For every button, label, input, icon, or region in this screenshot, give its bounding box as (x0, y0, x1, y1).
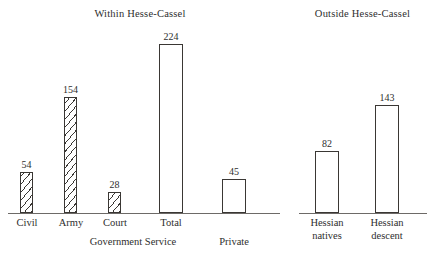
plot-area-right: 82 143 (290, 0, 433, 213)
bar-civil: 54 (20, 172, 33, 213)
x-tick-label-hessian-natives-line1: Hessian (310, 217, 343, 228)
bar-hessian-descent: 143 (375, 105, 399, 213)
bar-value-army: 154 (41, 84, 101, 95)
x-axis-line-left (8, 213, 280, 214)
chart-panel-within-hesse-cassel: Within Hesse-Cassel 54 154 28 224 45 (0, 0, 290, 267)
x-tick-label-hessian-descent: Hessian descent (352, 216, 422, 242)
x-tick-label-hessian-natives-line2: natives (312, 230, 342, 241)
bar-value-hessian-natives: 82 (297, 138, 357, 149)
bar-hessian-natives: 82 (315, 151, 339, 213)
x-tick-label-hessian-descent-line1: Hessian (370, 217, 403, 228)
bar-court: 28 (108, 192, 121, 213)
plot-area-left: 54 154 28 224 45 (0, 0, 290, 213)
bar-value-total: 224 (141, 31, 201, 42)
bar-army: 154 (64, 97, 77, 213)
chart-page: Within Hesse-Cassel 54 154 28 224 45 (0, 0, 433, 267)
bar-private: 45 (222, 179, 246, 213)
bar-value-private: 45 (204, 166, 264, 177)
x-tick-label-hessian-descent-line2: descent (371, 230, 403, 241)
bar-value-hessian-descent: 143 (357, 92, 417, 103)
x-tick-label-total: Total (136, 216, 206, 229)
bar-total: 224 (159, 44, 183, 213)
bar-value-court: 28 (85, 179, 145, 190)
chart-panel-outside-hesse-cassel: Outside Hesse-Cassel 82 143 Hessian nati… (290, 0, 433, 267)
x-axis-line-right (299, 213, 427, 214)
bar-value-civil: 54 (0, 159, 57, 170)
